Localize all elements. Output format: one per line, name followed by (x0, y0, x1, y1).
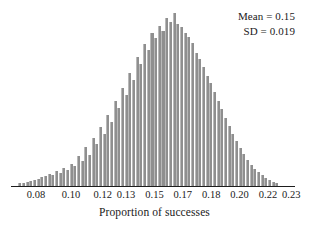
histogram-bar (154, 38, 157, 186)
histogram-bar (239, 148, 242, 186)
histogram-bar (73, 166, 76, 186)
histogram-bar (62, 168, 65, 186)
annotation-sd: SD = 0.019 (238, 24, 295, 39)
histogram-bar (191, 43, 194, 186)
x-tick-label: 0.18 (202, 189, 221, 200)
histogram-bar (128, 73, 131, 186)
histogram-bar (253, 169, 256, 186)
histogram-bar (103, 134, 106, 186)
histogram-bar (106, 115, 109, 186)
histogram-bar (95, 144, 98, 186)
histogram-bar (250, 165, 253, 186)
annotation-mean: Mean = 0.15 (238, 9, 295, 24)
histogram-bar (213, 92, 216, 186)
x-tick-label: 0.08 (27, 189, 46, 200)
histogram-bar (180, 27, 183, 186)
histogram-bar (173, 13, 176, 186)
histogram-bar (220, 109, 223, 186)
x-tick-label: 0.23 (282, 189, 301, 200)
x-axis-tick-labels: 0.080.100.120.130.150.170.180.200.220.23 (0, 189, 309, 205)
x-tick-label: 0.22 (259, 189, 278, 200)
histogram-bar (44, 176, 47, 186)
histogram-bar (187, 37, 190, 186)
histogram-bar (231, 134, 234, 186)
histogram-bar (77, 156, 80, 186)
histogram-bar (169, 22, 172, 186)
histogram-bar (132, 80, 135, 186)
histogram-bar (84, 147, 87, 186)
x-tick-label: 0.17 (174, 189, 193, 200)
histogram-bar (92, 138, 95, 186)
histogram-bar (81, 161, 84, 186)
histogram-bar (48, 174, 51, 186)
histogram-bar (37, 179, 40, 186)
histogram-bar (143, 44, 146, 186)
histogram-bar (206, 76, 209, 186)
histogram-bar (70, 164, 73, 186)
histogram-bar (117, 108, 120, 186)
histogram-bar (158, 26, 161, 186)
histogram-bar (202, 67, 205, 186)
histogram-bar (217, 101, 220, 186)
histogram-bar (51, 175, 54, 186)
histogram-bar (150, 33, 153, 186)
histogram-bar (224, 118, 227, 186)
histogram-bar (261, 175, 264, 186)
histogram-bar (264, 178, 267, 186)
histogram-bar (99, 127, 102, 186)
histogram-bar (136, 57, 139, 186)
x-axis-title: Proportion of successes (0, 206, 309, 218)
x-tick-label: 0.20 (230, 189, 249, 200)
histogram-bar (114, 101, 117, 186)
histogram-bar (125, 95, 128, 186)
histogram-bar (209, 83, 212, 186)
histogram-bar (66, 170, 69, 186)
histogram-bar (40, 177, 43, 186)
histogram-bar (139, 64, 142, 186)
x-tick-label: 0.15 (145, 189, 164, 200)
histogram-bar (246, 160, 249, 186)
x-axis-line (11, 186, 295, 187)
x-tick-label: 0.13 (117, 189, 136, 200)
histogram-figure: 0.080.100.120.130.150.170.180.200.220.23… (0, 0, 309, 234)
histogram-bar (235, 141, 238, 186)
histogram-bar (176, 24, 179, 186)
histogram-bar (198, 59, 201, 186)
histogram-bar (257, 172, 260, 186)
histogram-bar (195, 53, 198, 186)
x-tick-label: 0.12 (93, 189, 112, 200)
statistics-annotation: Mean = 0.15 SD = 0.019 (238, 9, 295, 38)
histogram-bar (165, 18, 168, 186)
histogram-bar (147, 50, 150, 186)
histogram-bar (161, 31, 164, 186)
histogram-bar (110, 122, 113, 186)
histogram-bar (121, 88, 124, 186)
histogram-bar (88, 155, 91, 186)
histogram-bar (228, 126, 231, 186)
histogram-bar (59, 173, 62, 186)
histogram-bar (55, 171, 58, 186)
x-tick-label: 0.10 (62, 189, 81, 200)
histogram-bar (184, 33, 187, 186)
histogram-bar (242, 154, 245, 186)
